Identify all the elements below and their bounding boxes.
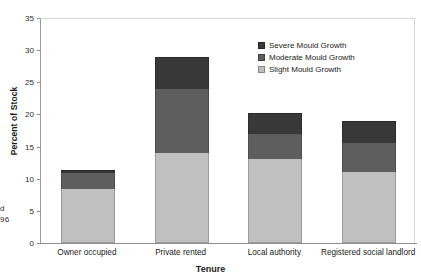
y-axis-title: Percent of Stock [9, 76, 19, 166]
bar-segment [155, 89, 209, 153]
x-tick-label: Local authority [248, 248, 301, 257]
legend-label: Slight Mould Growth [269, 65, 341, 74]
margin-text-line1: d [0, 204, 5, 213]
bar-segment [248, 113, 302, 134]
x-tick-label: Private rented [155, 248, 206, 257]
legend-swatch-icon [258, 54, 265, 61]
bar-2 [155, 18, 209, 243]
bar-1 [61, 18, 115, 243]
y-tick-label: 5 [8, 206, 34, 215]
bar-segment [155, 57, 209, 89]
legend-label: Severe Mould Growth [269, 41, 346, 50]
chart-legend: Severe Mould GrowthModerate Mould Growth… [258, 40, 355, 76]
y-tick-label: 30 [8, 46, 34, 55]
legend-item: Severe Mould Growth [258, 40, 355, 51]
x-axis-title: Tenure [0, 264, 421, 274]
bar-segment [61, 189, 115, 243]
bar-segment [61, 170, 115, 173]
y-tick-label: 25 [8, 78, 34, 87]
margin-text-line2: 96 [0, 215, 9, 224]
plot-area [40, 18, 415, 243]
bar-segment [342, 121, 396, 144]
y-tick-label: 35 [8, 14, 34, 23]
y-tick-label: 10 [8, 174, 34, 183]
y-tick-label: 20 [8, 110, 34, 119]
y-tick-label: 0 [8, 239, 34, 248]
legend-item: Moderate Mould Growth [258, 52, 355, 63]
bar-segment [248, 134, 302, 160]
legend-label: Moderate Mould Growth [269, 53, 355, 62]
legend-item: Slight Mould Growth [258, 64, 355, 75]
bar-segment [248, 159, 302, 243]
legend-swatch-icon [258, 66, 265, 73]
y-tick-label: 15 [8, 142, 34, 151]
legend-swatch-icon [258, 42, 265, 49]
bar-segment [342, 143, 396, 172]
bar-segment [61, 173, 115, 189]
bar-segment [342, 172, 396, 243]
chart-container: d 96 Percent of Stock 05101520253035 Own… [0, 0, 421, 279]
x-tick-label: Registered social landlord [321, 248, 415, 257]
x-axis-line [38, 243, 417, 244]
bar-segment [155, 153, 209, 243]
x-tick-label: Owner occupied [57, 248, 116, 257]
